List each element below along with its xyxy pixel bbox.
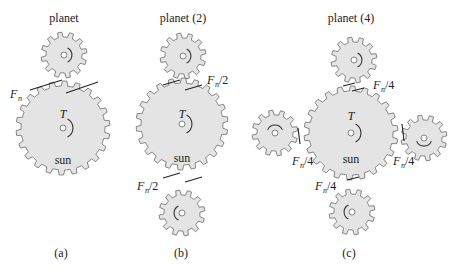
sun-label-c: sun [343, 152, 360, 166]
planet-gear-c-bottom [329, 189, 375, 235]
force-label-b-1: F n /2 [136, 179, 158, 195]
planet-label-a: planet [49, 11, 79, 25]
svg-text:F: F [291, 154, 300, 168]
svg-text:/4: /4 [304, 154, 313, 168]
hub-icon [61, 52, 67, 58]
force-label-c-right: F n /4 [392, 154, 414, 170]
svg-text:F: F [136, 179, 145, 193]
hub-icon [421, 135, 427, 141]
hub-icon [179, 121, 185, 127]
planet-gear-b-top [160, 33, 206, 79]
gears-layer [16, 32, 447, 236]
caption-a: (a) [54, 246, 67, 260]
planetary-gear-diagram: planet T sun F n (a) planet (2) T sun F … [0, 0, 462, 274]
sun-label-b: sun [174, 151, 191, 165]
force-label-c-bottom: F n /4 [314, 179, 336, 195]
planet-label-b: planet (2) [160, 11, 206, 25]
hub-icon [348, 130, 354, 136]
hub-icon [349, 209, 355, 215]
svg-text:F: F [314, 179, 323, 193]
hub-icon [180, 53, 186, 59]
svg-text:F: F [392, 154, 401, 168]
force-line-c-top-1 [343, 83, 355, 86]
hub-icon [351, 57, 357, 63]
svg-text:F: F [206, 73, 215, 87]
hub-icon [272, 130, 278, 136]
planet-gear-c-top [331, 37, 377, 83]
planet-gear-b-bottom [159, 190, 205, 236]
svg-text:/2: /2 [149, 179, 158, 193]
svg-text:/4: /4 [385, 78, 394, 92]
hub-icon [60, 125, 66, 131]
svg-text:/2: /2 [219, 73, 228, 87]
svg-text:F: F [372, 78, 381, 92]
svg-text:/4: /4 [327, 179, 336, 193]
planet-label-c: planet (4) [328, 11, 374, 25]
force-label-c-left: F n /4 [291, 154, 313, 170]
svg-text:/4: /4 [405, 154, 414, 168]
svg-text:F: F [9, 87, 18, 101]
force-line-b-bot-2 [185, 177, 202, 182]
planet-gear-a [41, 32, 87, 78]
force-label-a-0: F n [9, 87, 22, 103]
caption-b: (b) [174, 246, 188, 260]
svg-text:n: n [18, 94, 22, 103]
force-line-c-left [298, 128, 300, 144]
force-label-c-top: F n /4 [372, 78, 394, 94]
force-line-b-bot-1 [163, 173, 180, 178]
caption-c: (c) [342, 246, 355, 260]
force-label-b-0: F n /2 [206, 73, 228, 89]
planet-gear-c-left [252, 110, 298, 156]
sun-label-a: sun [55, 153, 72, 167]
hub-icon [179, 210, 185, 216]
